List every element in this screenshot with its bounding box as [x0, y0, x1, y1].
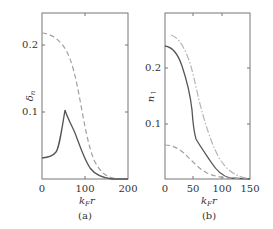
xtick-label-a-0: 0 [39, 183, 45, 194]
xtick-label-b-100: 100 [212, 183, 231, 194]
xtick-label-b-150: 150 [240, 183, 259, 194]
panel-a: 0.2 0.1 0 100 200 kFr δn (a) [22, 13, 137, 221]
ytick-label-a-0.2: 0.2 [22, 39, 38, 50]
panel-b: 0.2 0.1 0 50 100 150 kFr n↑ (b) [145, 13, 260, 221]
xtick-label-b-50: 50 [187, 183, 200, 194]
panel-label-a: (a) [78, 210, 92, 221]
xtick-label-b-0: 0 [162, 183, 168, 194]
xlabel-b: kFr [201, 195, 218, 208]
panel-b-frame [165, 13, 250, 179]
series-b-dashed [165, 145, 250, 179]
xtick-label-a-200: 200 [118, 183, 137, 194]
panel-label-b: (b) [202, 210, 216, 221]
series-b-dashdot [171, 35, 250, 179]
ytick-label-b-0.2: 0.2 [145, 62, 161, 73]
series-b-solid [165, 46, 250, 179]
ytick-label-b-0.1: 0.1 [145, 118, 161, 129]
ytick-label-a-0.1: 0.1 [22, 106, 38, 117]
ylabel-a: δn [24, 90, 37, 101]
xlabel-a: kFr [79, 195, 96, 208]
figure: 0.2 0.1 0 100 200 kFr δn (a) 0.2 0.1 0 5… [0, 0, 273, 229]
series-a-solid [42, 110, 128, 179]
ylabel-b: n↑ [145, 90, 158, 102]
xtick-label-a-100: 100 [75, 183, 94, 194]
